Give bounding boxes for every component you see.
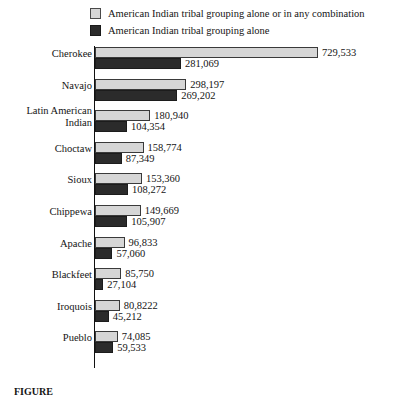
bar-value-label: 281,069 (185, 58, 219, 69)
category-label: Blackfeet (0, 269, 92, 281)
bar-combination (95, 237, 125, 248)
bar-row: 158,774 (95, 142, 182, 153)
bar-value-label: 80,8222 (124, 300, 158, 311)
bar-combination (95, 331, 118, 342)
bar-group: Apache96,83357,060 (0, 236, 404, 264)
bar-alone (95, 121, 127, 132)
bar-row: 153,360 (95, 173, 180, 184)
category-label: Chippewa (0, 206, 92, 218)
category-label: Pueblo (0, 332, 92, 344)
bar-value-label: 108,272 (132, 184, 166, 195)
bar-value-label: 158,774 (148, 142, 182, 153)
bar-group: Latin AmericanIndian180,940104,354 (0, 109, 404, 137)
bar-group: Pueblo74,08559,533 (0, 330, 404, 358)
bar-row: 281,069 (95, 58, 219, 69)
category-label: Cherokee (0, 48, 92, 60)
bar-group: Sioux153,360108,272 (0, 172, 404, 200)
bar-combination (95, 79, 186, 90)
bar-value-label: 45,212 (113, 311, 142, 322)
bar-alone (95, 279, 103, 290)
bar-combination (95, 47, 318, 58)
bar-value-label: 298,197 (190, 79, 224, 90)
bar-group: Choctaw158,77487,349 (0, 141, 404, 169)
bar-value-label: 74,085 (122, 331, 151, 342)
legend-item-alone: American Indian tribal grouping alone (90, 23, 404, 38)
bar-row: 105,907 (95, 216, 165, 227)
bar-group: Blackfeet85,75027,104 (0, 267, 404, 295)
bar-row: 96,833 (95, 237, 157, 248)
bar-combination (95, 110, 150, 121)
bar-value-label: 153,360 (146, 173, 180, 184)
legend-item-label: American Indian tribal grouping alone (108, 25, 270, 37)
bar-row: 80,8222 (95, 300, 158, 311)
bar-value-label: 180,940 (154, 110, 188, 121)
bar-row: 180,940 (95, 110, 188, 121)
dark-swatch-icon (90, 25, 101, 36)
bar-value-label: 269,202 (181, 90, 215, 101)
bar-alone (95, 342, 113, 353)
bar-row: 269,202 (95, 90, 215, 101)
bar-row: 45,212 (95, 311, 142, 322)
bar-alone (95, 90, 177, 101)
category-label: Apache (0, 238, 92, 250)
bar-combination (95, 300, 120, 311)
bar-chart-plot-area: Cherokee729,533281,069Navajo298,197269,2… (0, 44, 404, 374)
light-gray-swatch-icon (90, 8, 101, 19)
bar-alone (95, 311, 109, 322)
bar-row: 149,669 (95, 205, 179, 216)
bar-row: 729,533 (95, 47, 356, 58)
category-label: Navajo (0, 80, 92, 92)
bar-row: 27,104 (95, 279, 136, 290)
bar-value-label: 27,104 (107, 279, 136, 290)
bar-value-label: 59,533 (117, 342, 146, 353)
bar-combination (95, 173, 142, 184)
bar-alone (95, 58, 181, 69)
bar-row: 104,354 (95, 121, 165, 132)
bar-group: Iroquois80,822245,212 (0, 299, 404, 327)
bar-alone (95, 216, 127, 227)
category-label: Iroquois (0, 301, 92, 313)
bar-row: 298,197 (95, 79, 224, 90)
bar-row: 57,060 (95, 248, 145, 259)
bar-row: 108,272 (95, 184, 166, 195)
legend-item-combination: American Indian tribal grouping alone or… (90, 6, 404, 21)
category-label: Latin AmericanIndian (0, 105, 92, 129)
bar-value-label: 87,349 (126, 153, 155, 164)
bar-row: 87,349 (95, 153, 155, 164)
category-label: Choctaw (0, 143, 92, 155)
bar-row: 85,750 (95, 268, 154, 279)
bar-value-label: 96,833 (129, 237, 158, 248)
bar-combination (95, 142, 144, 153)
bar-combination (95, 205, 141, 216)
bar-row: 59,533 (95, 342, 146, 353)
bar-value-label: 729,533 (322, 47, 356, 58)
bar-group: Navajo298,197269,202 (0, 78, 404, 106)
bar-combination (95, 268, 121, 279)
category-label-line: Latin American (0, 105, 92, 117)
bar-value-label: 85,750 (125, 268, 154, 279)
bar-alone (95, 248, 112, 259)
category-label: Sioux (0, 174, 92, 186)
bar-row: 74,085 (95, 331, 151, 342)
bar-group: Chippewa149,669105,907 (0, 204, 404, 232)
bar-value-label: 149,669 (145, 205, 179, 216)
bar-alone (95, 184, 128, 195)
bar-group: Cherokee729,533281,069 (0, 46, 404, 74)
legend-item-label: American Indian tribal grouping alone or… (108, 8, 365, 20)
figure-caption-label: FIGURE (14, 386, 53, 395)
bar-alone (95, 153, 122, 164)
bar-value-label: 104,354 (131, 121, 165, 132)
category-label-line: Indian (0, 117, 92, 129)
bar-value-label: 57,060 (116, 248, 145, 259)
figure-caption: FIGURE (14, 386, 404, 395)
chart-legend: American Indian tribal grouping alone or… (90, 6, 404, 40)
bar-value-label: 105,907 (131, 216, 165, 227)
